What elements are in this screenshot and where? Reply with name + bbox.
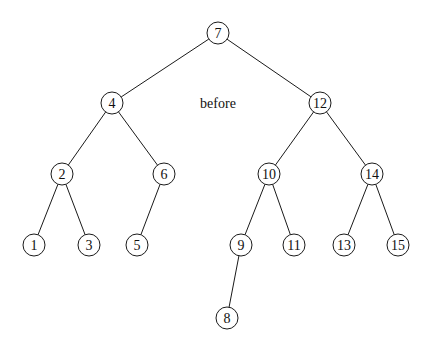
tree-node-4: 4 [101, 92, 123, 114]
node-label: 11 [287, 238, 300, 253]
tree-node-13: 13 [333, 234, 355, 256]
tree-node-14: 14 [361, 163, 383, 185]
edge-14-15 [376, 184, 394, 234]
tree-node-15: 15 [387, 234, 409, 256]
edges-layer [38, 39, 394, 307]
node-label: 1 [31, 238, 38, 253]
edge-9-8 [229, 256, 239, 307]
edge-12-14 [326, 112, 365, 165]
node-label: 4 [109, 96, 116, 111]
edge-14-13 [348, 184, 368, 235]
node-label: 3 [86, 238, 93, 253]
tree-node-5: 5 [126, 234, 148, 256]
edge-4-6 [118, 112, 157, 165]
tree-node-7: 7 [207, 22, 229, 44]
edge-4-2 [68, 112, 105, 165]
node-label: 15 [391, 238, 405, 253]
edge-7-12 [227, 39, 311, 97]
edge-2-3 [66, 184, 85, 234]
edge-12-10 [275, 112, 313, 165]
node-label: 12 [313, 96, 327, 111]
edge-7-4 [121, 39, 209, 97]
tree-node-12: 12 [309, 92, 331, 114]
node-label: 13 [337, 238, 351, 253]
edge-6-5 [141, 184, 160, 234]
edge-10-9 [245, 184, 265, 235]
tree-node-11: 11 [283, 234, 305, 256]
diagram-caption: before [200, 96, 236, 111]
node-label: 14 [365, 167, 379, 182]
node-label: 2 [59, 167, 66, 182]
edge-10-11 [273, 184, 291, 234]
tree-node-2: 2 [51, 163, 73, 185]
tree-node-9: 9 [230, 234, 252, 256]
nodes-layer: 741226101413591113158 [23, 22, 409, 329]
tree-node-6: 6 [153, 163, 175, 185]
tree-node-3: 3 [78, 234, 100, 256]
node-label: 5 [134, 238, 141, 253]
tree-node-10: 10 [258, 163, 280, 185]
edge-2-1 [38, 184, 58, 235]
tree-node-8: 8 [216, 307, 238, 329]
node-label: 9 [238, 238, 245, 253]
node-label: 8 [224, 311, 231, 326]
node-label: 10 [262, 167, 276, 182]
node-label: 6 [161, 167, 168, 182]
tree-node-1: 1 [23, 234, 45, 256]
node-label: 7 [215, 26, 222, 41]
tree-diagram: 741226101413591113158 before [0, 0, 431, 344]
